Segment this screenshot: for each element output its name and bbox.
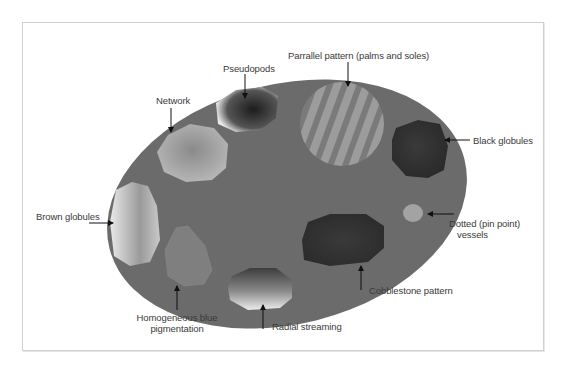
- label-network: Network: [156, 95, 190, 106]
- label-radial-streaming: Radial streaming: [272, 321, 342, 332]
- dotted-vessels-image: [403, 204, 423, 222]
- label-homogeneous-line2: pigmentation: [127, 323, 227, 334]
- parallel-pattern-image: [300, 82, 384, 166]
- label-cobblestone: Cobblestone pattern: [369, 285, 453, 296]
- label-brown-globules: Brown globules: [36, 211, 100, 222]
- label-parallel-pattern: Parrallel pattern (palms and soles): [288, 50, 429, 61]
- label-homogeneous-blue: Homogeneous blue pigmentation: [127, 312, 227, 334]
- radial-streaming-image: [228, 268, 292, 310]
- black-globules-image: [392, 120, 448, 178]
- cobblestone-image: [302, 214, 384, 266]
- label-black-globules: Black globules: [473, 135, 533, 146]
- label-dotted-vessels-line2: vessels: [449, 229, 520, 240]
- label-homogeneous-line1: Homogeneous blue: [127, 312, 227, 323]
- label-pseudopods: Pseudopods: [223, 63, 275, 74]
- label-dotted-vessels-line1: Dotted (pin point): [449, 218, 520, 229]
- pattern-diagram: [0, 0, 562, 370]
- label-dotted-vessels: Dotted (pin point) vessels: [449, 218, 520, 240]
